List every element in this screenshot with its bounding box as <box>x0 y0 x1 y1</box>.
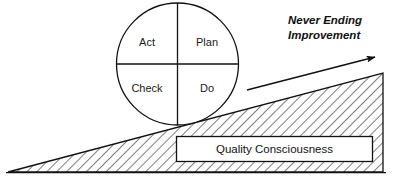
quality-consciousness-label: Quality Consciousness <box>216 143 333 155</box>
improvement-caption-line-1: Never Ending <box>288 14 362 26</box>
quality-consciousness-box: Quality Consciousness <box>177 137 373 162</box>
diagram-canvas: Act Plan Check Do Never Ending Improveme… <box>0 0 396 184</box>
pdca-quadrant-label-plan: Plan <box>196 36 218 48</box>
pdca-quadrant-label-do: Do <box>200 82 214 94</box>
pdca-improvement-diagram: Act Plan Check Do Never Ending Improveme… <box>0 0 396 184</box>
pdca-cycle: Act Plan Check Do <box>117 3 239 125</box>
pdca-quadrant-label-check: Check <box>131 82 163 94</box>
improvement-arrow-group: Never Ending Improvement <box>247 14 375 90</box>
improvement-caption-line-2: Improvement <box>288 29 361 41</box>
pdca-quadrant-label-act: Act <box>139 36 155 48</box>
